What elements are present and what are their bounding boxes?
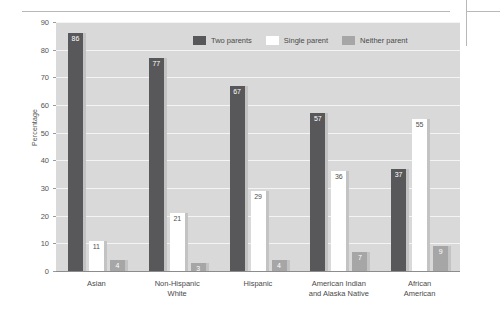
y-tick-label: 40 bbox=[25, 156, 49, 165]
x-axis-label-line: White bbox=[137, 289, 218, 299]
bar-value-label: 4 bbox=[272, 262, 287, 270]
y-tick-label: 50 bbox=[25, 129, 49, 138]
legend-swatch-icon bbox=[342, 36, 355, 45]
x-axis-label: Hispanic bbox=[218, 279, 299, 289]
chart-legend: Two parentsSingle parentNeither parent bbox=[193, 36, 408, 45]
bar-value-label: 21 bbox=[170, 215, 185, 223]
bar-value-label: 86 bbox=[68, 35, 83, 43]
y-tick-mark bbox=[53, 133, 56, 134]
x-axis-label: American Indianand Alaska Native bbox=[298, 279, 379, 299]
x-axis-label-line: African bbox=[379, 279, 460, 289]
x-axis-label: AfricanAmerican bbox=[379, 279, 460, 299]
y-tick-mark bbox=[53, 105, 56, 106]
bar-value-label: 7 bbox=[352, 254, 367, 262]
y-tick-mark bbox=[53, 77, 56, 78]
y-tick-mark bbox=[53, 50, 56, 51]
y-tick-label: 90 bbox=[25, 18, 49, 27]
x-axis-label-line: Hispanic bbox=[218, 279, 299, 289]
bar-value-label: 11 bbox=[89, 243, 104, 251]
y-tick-label: 30 bbox=[25, 184, 49, 193]
bar-value-label: 77 bbox=[149, 60, 164, 68]
y-tick-mark bbox=[53, 188, 56, 189]
y-tick-label: 20 bbox=[25, 212, 49, 221]
gridline bbox=[56, 133, 460, 134]
x-axis-label-line: and Alaska Native bbox=[298, 289, 379, 299]
y-tick-mark bbox=[53, 243, 56, 244]
bar-value-label: 9 bbox=[433, 248, 448, 256]
bar-value-label: 4 bbox=[110, 262, 125, 270]
bar[interactable] bbox=[68, 33, 83, 271]
legend-label: Neither parent bbox=[360, 36, 408, 45]
bar-value-label: 37 bbox=[391, 171, 406, 179]
bar[interactable] bbox=[412, 119, 427, 271]
legend-swatch-icon bbox=[193, 36, 206, 45]
bar[interactable] bbox=[149, 58, 164, 271]
legend-label: Single parent bbox=[284, 36, 328, 45]
bar-value-label: 57 bbox=[310, 115, 325, 123]
bar[interactable] bbox=[391, 169, 406, 271]
x-axis-label-line: American bbox=[379, 289, 460, 299]
grouped-bar-chart: Percentage 8611477213672945736737559 010… bbox=[0, 0, 500, 320]
x-axis-label-line: American Indian bbox=[298, 279, 379, 289]
x-axis-label: Non-HispanicWhite bbox=[137, 279, 218, 299]
legend-label: Two parents bbox=[211, 36, 252, 45]
x-axis-label-line: Asian bbox=[56, 279, 137, 289]
y-tick-mark bbox=[53, 216, 56, 217]
page-rule-vertical bbox=[466, 0, 467, 46]
bar[interactable] bbox=[230, 86, 245, 271]
plot-area: 8611477213672945736737559 bbox=[56, 22, 460, 271]
y-tick-mark bbox=[53, 22, 56, 23]
y-tick-label: 70 bbox=[25, 73, 49, 82]
gridline bbox=[56, 22, 460, 23]
legend-item[interactable]: Single parent bbox=[266, 36, 328, 45]
x-axis-label: Asian bbox=[56, 279, 137, 289]
gridline bbox=[56, 77, 460, 78]
page-rule-top-right bbox=[466, 11, 500, 12]
bar-value-label: 36 bbox=[331, 173, 346, 181]
page-rule-top-left bbox=[22, 11, 450, 12]
bar-value-label: 55 bbox=[412, 121, 427, 129]
bar[interactable] bbox=[331, 171, 346, 271]
y-tick-label: 10 bbox=[25, 239, 49, 248]
legend-swatch-icon bbox=[266, 36, 279, 45]
bar-value-label: 67 bbox=[230, 88, 245, 96]
gridline bbox=[56, 160, 460, 161]
x-axis-line bbox=[56, 271, 460, 272]
y-tick-label: 0 bbox=[25, 267, 49, 276]
y-tick-mark bbox=[53, 271, 56, 272]
y-tick-mark bbox=[53, 160, 56, 161]
y-tick-label: 60 bbox=[25, 101, 49, 110]
bar-value-label: 29 bbox=[251, 193, 266, 201]
gridline bbox=[56, 50, 460, 51]
gridline bbox=[56, 105, 460, 106]
legend-item[interactable]: Two parents bbox=[193, 36, 252, 45]
x-axis-label-line: Non-Hispanic bbox=[137, 279, 218, 289]
bar[interactable] bbox=[310, 113, 325, 271]
legend-item[interactable]: Neither parent bbox=[342, 36, 408, 45]
y-tick-label: 80 bbox=[25, 46, 49, 55]
bar[interactable] bbox=[251, 191, 266, 271]
